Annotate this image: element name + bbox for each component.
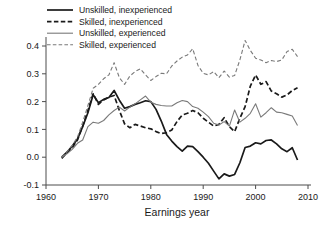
line-chart: -0.10.00.10.20.30.4196019701980199020002… [0,0,325,236]
chart-container: -0.10.00.10.20.30.4196019701980199020002… [0,0,325,236]
series-line-3 [62,40,298,157]
legend-label-0: Unskilled, inexperienced [79,5,172,15]
series-lines [62,40,298,178]
x-axis-title: Earnings year [145,206,210,218]
x-tick-label: 1960 [36,192,56,202]
x-tick-label: 2000 [246,192,266,202]
y-tick-label: 0.0 [26,152,39,162]
y-tick-label: 0.4 [26,41,39,51]
x-tick-label: 1970 [88,192,108,202]
y-tick-label: 0.2 [26,97,39,107]
y-tick-label: -0.1 [23,180,39,190]
legend-label-2: Unskilled, experienced [79,28,166,38]
axis-labels: Earnings year [145,206,210,218]
y-tick-label: 0.3 [26,69,39,79]
x-tick-label: 2010 [298,192,318,202]
chart-legend: Unskilled, inexperiencedSkilled, inexper… [47,5,172,50]
series-line-0 [62,90,298,178]
y-tick-label: 0.1 [26,125,39,135]
x-tick-label: 1980 [141,192,161,202]
axes: -0.10.00.10.20.30.4196019701980199020002… [23,37,318,202]
legend-label-1: Skilled, inexperienced [79,17,163,27]
legend-label-3: Skilled, experienced [79,40,156,50]
x-tick-label: 1990 [193,192,213,202]
